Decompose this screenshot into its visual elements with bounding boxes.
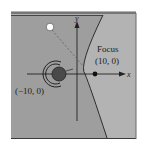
hyperbola-mirror-diagram: x y Focus (10, 0) (−10, 0) [0, 0, 141, 147]
object-coords: (−10, 0) [15, 86, 44, 96]
focus-coords: (10, 0) [95, 56, 119, 66]
light-source-icon [46, 23, 54, 31]
focus-dot-icon [93, 72, 98, 77]
focus-label: Focus [97, 44, 119, 54]
x-axis-label: x [126, 70, 131, 79]
y-axis-label: y [74, 14, 79, 23]
object-disk-icon [52, 67, 66, 81]
